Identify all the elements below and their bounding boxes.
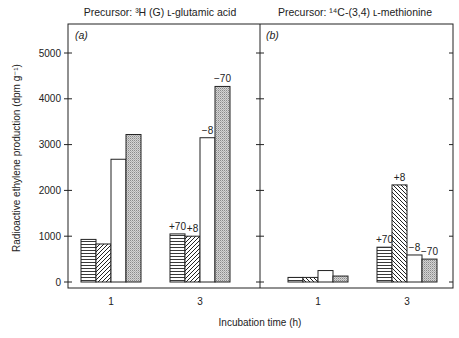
bar-annotation: −8: [202, 125, 214, 136]
x-tick-label: 1: [108, 296, 114, 307]
x-tick-label: 3: [404, 296, 410, 307]
y-tick-label: 3000: [39, 139, 62, 150]
bar-horizontal-stripes: [81, 239, 96, 282]
bar-annotation: +70: [169, 221, 186, 232]
panel-b-title: Precursor: ¹⁴C-(3,4) ʟ-methionine: [278, 6, 432, 18]
bar-diagonal-hatch: [392, 185, 407, 282]
bar-stippled: [333, 276, 348, 282]
x-tick-label: 1: [315, 296, 321, 307]
bar-annotation: +8: [394, 172, 406, 183]
panel-b-label: (b): [266, 29, 279, 41]
panel-a-title: Precursor: ³H (G) ʟ-glutamic acid: [84, 6, 237, 18]
panel-a-label: (a): [75, 29, 88, 41]
y-tick-label: 4000: [39, 93, 62, 104]
bar-annotation: −70: [214, 73, 231, 84]
bar-annotation: −8: [409, 242, 421, 253]
bar-annotation: +70: [376, 234, 393, 245]
bar-open: [407, 255, 422, 282]
bar-stippled: [215, 86, 230, 282]
x-tick-label: 3: [197, 296, 203, 307]
y-tick-label: 1000: [39, 231, 62, 242]
x-axis-label: Incubation time (h): [219, 317, 302, 328]
bar-diagonal-hatch: [185, 236, 200, 282]
bar-open: [200, 138, 215, 282]
bar-horizontal-stripes: [170, 234, 185, 282]
bar-stippled: [422, 259, 437, 282]
bar-diagonal-hatch: [96, 244, 111, 282]
bar-annotation: +8: [187, 223, 199, 234]
bar-horizontal-stripes: [377, 247, 392, 282]
bar-diagonal-hatch: [303, 277, 318, 282]
bar-open: [318, 271, 333, 282]
bar-open: [111, 159, 126, 282]
chart: Precursor: ³H (G) ʟ-glutamic acid Precur…: [0, 0, 459, 338]
bars: [81, 86, 437, 282]
y-tick-label: 5000: [39, 48, 62, 59]
y-tick-label: 2000: [39, 185, 62, 196]
y-axis-label: Radioactive ethylene production (dpm g⁻¹…: [11, 64, 22, 252]
bar-stippled: [126, 135, 141, 282]
bar-annotation: −70: [421, 246, 438, 257]
bar-horizontal-stripes: [288, 277, 303, 282]
y-tick-label: 0: [55, 277, 61, 288]
